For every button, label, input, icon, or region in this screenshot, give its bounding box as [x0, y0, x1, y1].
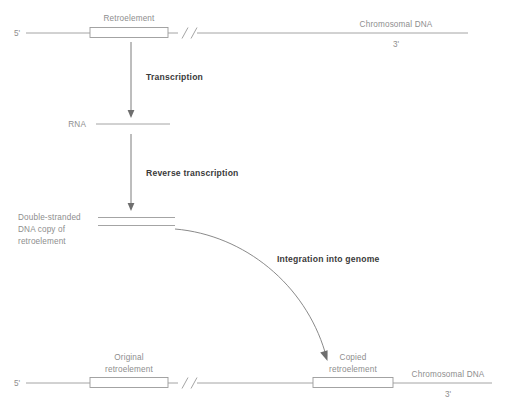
- integration-step-label: Integration into genome: [277, 254, 379, 264]
- rna-label: RNA: [68, 120, 86, 129]
- integration-arrow-curve: [175, 229, 325, 352]
- transcription-arrow-group: Transcription: [128, 42, 203, 118]
- top-break-slash-2: [191, 28, 197, 39]
- dna-copy-label-line2: DNA copy of: [18, 225, 66, 234]
- integration-arrow-group: Integration into genome: [175, 229, 379, 361]
- dna-copy-label-line3: retroelement: [18, 237, 66, 246]
- bottom-break-slash-2: [191, 378, 197, 389]
- bottom-original-label-line1: Original: [114, 353, 143, 362]
- bottom-three-prime-label: 3': [445, 390, 452, 399]
- bottom-chromosomal-dna-label: Chromosomal DNA: [412, 370, 485, 379]
- reverse-transcription-step-label: Reverse transcription: [146, 168, 239, 178]
- top-chromosomal-dna-label: Chromosomal DNA: [360, 20, 433, 29]
- bottom-break-slash-1: [182, 378, 188, 389]
- bottom-copied-retroelement-box: [313, 378, 393, 388]
- bottom-copied-label-line1: Copied: [340, 353, 367, 362]
- bottom-copied-label-line2: retroelement: [329, 365, 377, 374]
- bottom-original-retroelement-box: [90, 378, 168, 388]
- reverse-transcription-arrow-group: Reverse transcription: [128, 134, 239, 211]
- dna-copy-group: Double-stranded DNA copy of retroelement: [18, 213, 175, 246]
- integration-arrow-head: [320, 350, 327, 361]
- retroelement-diagram: 5' Retroelement Chromosomal DNA 3' Trans…: [0, 0, 514, 413]
- top-chromosome-row: 5' Retroelement Chromosomal DNA 3': [14, 14, 468, 49]
- bottom-original-label-line2: retroelement: [105, 365, 153, 374]
- top-three-prime-label: 3': [393, 40, 400, 49]
- transcription-arrow-head: [128, 110, 135, 118]
- top-break-slash-1: [182, 28, 188, 39]
- bottom-five-prime-label: 5': [14, 379, 21, 388]
- rna-row: RNA: [68, 120, 170, 129]
- top-five-prime-label: 5': [14, 29, 21, 38]
- dna-copy-label-line1: Double-stranded: [18, 213, 81, 222]
- top-retroelement-label: Retroelement: [104, 14, 156, 23]
- bottom-chromosome-row: 5' Original retroelement Copied retroele…: [14, 353, 492, 399]
- top-retroelement-box: [90, 28, 168, 38]
- transcription-step-label: Transcription: [146, 72, 203, 82]
- reverse-transcription-arrow-head: [128, 203, 135, 211]
- diagram-canvas: 5' Retroelement Chromosomal DNA 3' Trans…: [0, 0, 514, 413]
